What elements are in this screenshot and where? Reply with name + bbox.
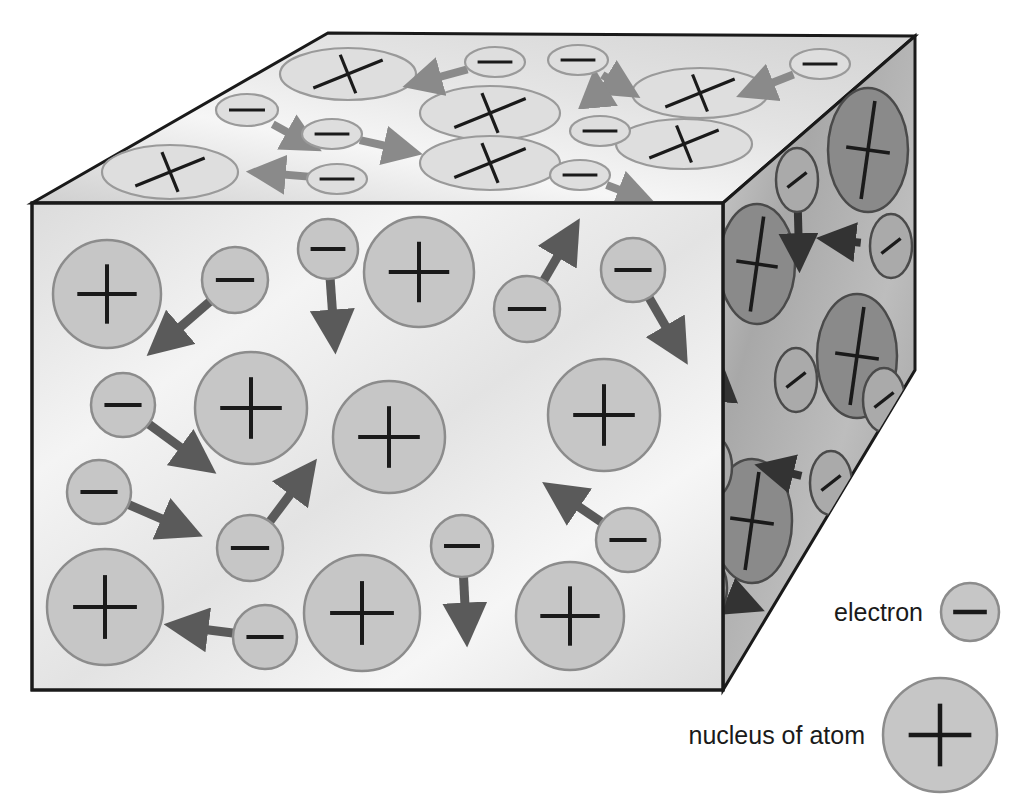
motion-arrow [835, 240, 861, 243]
electron-particle [307, 164, 367, 194]
electron-particle [870, 214, 912, 278]
motion-arrow [330, 277, 334, 333]
legend-nucleus-icon [883, 678, 997, 792]
motion-arrow [885, 430, 886, 480]
electron-particle [548, 45, 608, 75]
nucleus-particle [304, 555, 420, 671]
electron-particle [216, 94, 278, 126]
electron-particle [202, 247, 268, 313]
motion-arrow [265, 173, 309, 177]
legend-item: nucleus of atom [689, 678, 998, 792]
nucleus-particle [719, 204, 795, 324]
electron-particle [217, 515, 283, 581]
cube-front-face [32, 203, 723, 690]
electron-particle [67, 460, 131, 524]
nucleus-particle [195, 352, 307, 464]
motion-arrow [798, 210, 799, 254]
motion-arrow [596, 87, 597, 103]
motion-arrow [463, 575, 466, 626]
nucleus-particle [47, 549, 163, 665]
nucleus-particle [548, 359, 660, 471]
electron-particle [596, 508, 660, 572]
electron-particle [810, 451, 852, 515]
legend-item: electron [834, 583, 999, 641]
electron-particle [298, 219, 358, 279]
electron-particle [550, 160, 610, 190]
electron-particle [465, 47, 525, 77]
electron-particle [91, 373, 155, 437]
nucleus-particle [53, 240, 161, 348]
nucleus-particle [828, 88, 908, 212]
metallic-bonding-diagram: electronnucleus of atom [0, 0, 1030, 808]
electron-particle [570, 116, 630, 146]
electron-particle [790, 49, 850, 79]
legend-label: electron [834, 598, 923, 626]
electron-particle [233, 605, 297, 669]
legend-electron-icon [941, 583, 999, 641]
electron-particle [302, 119, 362, 149]
nucleus-particle [333, 381, 445, 493]
legend-label: nucleus of atom [689, 721, 866, 749]
nucleus-particle [516, 562, 624, 670]
electron-particle [494, 276, 560, 342]
electron-particle [601, 238, 665, 302]
nucleus-particle [364, 217, 474, 327]
diagram-canvas: electronnucleus of atom [0, 0, 1030, 808]
electron-particle [775, 348, 817, 412]
motion-arrow [734, 599, 747, 604]
electron-particle [431, 515, 493, 577]
motion-arrow [185, 627, 235, 633]
electron-particle [776, 148, 818, 212]
